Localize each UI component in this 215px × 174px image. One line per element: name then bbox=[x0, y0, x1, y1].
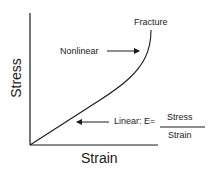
fracture-label: Fracture bbox=[134, 18, 168, 27]
x-axis-label: Strain bbox=[81, 151, 118, 165]
stress-strain-diagram bbox=[0, 0, 215, 174]
y-axis-label: Stress bbox=[9, 58, 23, 98]
fraction-denominator: Strain bbox=[168, 131, 192, 140]
nonlinear-label: Nonlinear bbox=[60, 47, 99, 56]
fraction-numerator: Stress bbox=[167, 113, 193, 122]
linear-label: Linear: E= bbox=[114, 117, 155, 126]
